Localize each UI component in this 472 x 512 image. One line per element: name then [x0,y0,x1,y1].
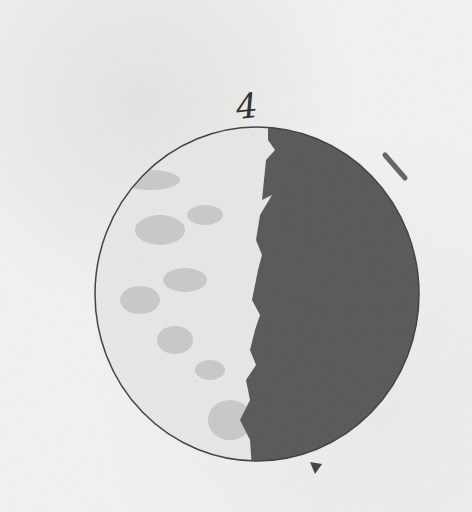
moon-sketch [0,0,472,512]
phase-number-label: 4 [234,85,260,127]
